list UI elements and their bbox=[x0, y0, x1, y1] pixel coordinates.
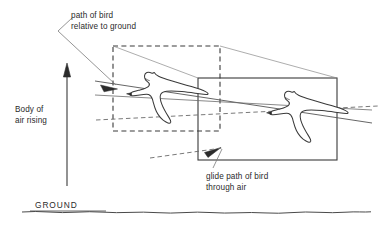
ground-relative-path-arrowhead bbox=[101, 85, 118, 92]
ground-relative-path-line bbox=[95, 81, 372, 123]
bird-2-beak bbox=[267, 112, 272, 115]
label-ground: GROUND bbox=[35, 200, 78, 211]
ground-line bbox=[22, 211, 371, 213]
label-body-of-air-rising: Body of air rising bbox=[15, 105, 47, 126]
label-glide-path-of-bird-through-air: glide path of bird through air bbox=[206, 172, 268, 193]
diagram-canvas bbox=[0, 0, 380, 225]
air-mass-box-solid bbox=[198, 78, 337, 160]
bird-glide-diagram: path of bird relative to ground glide pa… bbox=[0, 0, 380, 225]
bird-2-body bbox=[270, 91, 348, 142]
rising-air-arrow-head bbox=[63, 63, 70, 77]
bird-later-position bbox=[267, 91, 348, 142]
box-corner-connector-top-right bbox=[220, 46, 337, 78]
bird-1-beak bbox=[127, 93, 132, 96]
box-corner-connector-top-left bbox=[113, 46, 198, 78]
label-path-of-bird-relative-to-ground: path of bird relative to ground bbox=[71, 11, 136, 32]
